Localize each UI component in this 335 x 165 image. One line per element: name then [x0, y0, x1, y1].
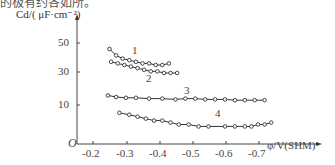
x-tick-0.4: -0.4: [149, 147, 166, 159]
data-point-marker: [144, 117, 148, 121]
data-point-marker: [223, 98, 227, 102]
data-point-marker: [154, 63, 158, 67]
x-tick-0.2: -0.2: [82, 147, 99, 159]
data-point-marker: [175, 71, 179, 75]
y-axis-label: Cd/( μF·cm⁻²): [16, 8, 80, 21]
y-tick-30: 30: [58, 65, 69, 77]
data-point-marker: [187, 123, 191, 127]
series-line-4: [119, 113, 271, 127]
data-point-marker: [114, 95, 118, 99]
data-point-marker: [116, 62, 120, 66]
data-point-marker: [169, 71, 173, 75]
y-tick-10: 10: [58, 98, 69, 110]
data-point-marker: [136, 66, 140, 70]
data-point-marker: [121, 57, 125, 61]
data-point-marker: [253, 98, 257, 102]
origin-label: O: [68, 136, 77, 151]
data-point-marker: [194, 97, 198, 101]
data-point-marker: [256, 123, 260, 127]
x-tick-0.5: -0.5: [182, 147, 199, 159]
data-point-marker: [136, 115, 140, 119]
x-tick-0.6: -0.6: [215, 147, 232, 159]
data-point-marker: [124, 96, 128, 100]
data-point-marker: [106, 94, 110, 98]
y-tick-50: 50: [58, 36, 69, 48]
data-point-marker: [147, 97, 151, 101]
curve-label-1: 1: [132, 44, 138, 56]
data-point-marker: [161, 119, 165, 123]
data-point-marker: [197, 125, 201, 129]
data-point-marker: [233, 125, 237, 129]
data-point-marker: [250, 125, 254, 129]
curve-label-4: 4: [215, 107, 221, 119]
data-point-marker: [162, 71, 166, 75]
data-point-marker: [207, 125, 211, 129]
curve-label-3: 3: [184, 84, 190, 96]
data-point-marker: [118, 111, 122, 115]
data-point-marker: [128, 113, 132, 117]
data-point-marker: [223, 125, 227, 129]
data-point-marker: [109, 60, 113, 64]
x-axis-label: φ/V(SHM): [267, 139, 316, 151]
data-point-marker: [169, 121, 173, 125]
x-tick-0.3: -0.3: [116, 147, 133, 159]
data-point-marker: [161, 97, 165, 101]
data-point-marker: [269, 121, 273, 125]
data-point-marker: [177, 123, 181, 127]
data-point-marker: [141, 62, 145, 66]
data-point-marker: [114, 54, 118, 58]
data-point-marker: [108, 47, 112, 51]
data-point-marker: [263, 123, 267, 127]
x-axis-arrow-icon: [316, 142, 322, 146]
data-point-marker: [174, 98, 178, 102]
data-point-marker: [263, 98, 267, 102]
data-point-marker: [147, 62, 151, 66]
data-point-marker: [167, 62, 171, 66]
data-point-marker: [134, 96, 138, 100]
data-point-marker: [128, 58, 132, 62]
data-point-marker: [129, 65, 133, 69]
curve-label-2: 2: [146, 72, 152, 84]
data-point-marker: [203, 98, 207, 102]
data-point-marker: [161, 63, 165, 67]
data-point-marker: [156, 70, 160, 74]
data-point-marker: [134, 60, 138, 64]
data-point-marker: [184, 97, 188, 101]
data-point-marker: [243, 125, 247, 129]
data-point-marker: [213, 98, 217, 102]
data-point-marker: [123, 63, 127, 67]
data-point-marker: [233, 98, 237, 102]
x-tick-0.7: -0.7: [248, 147, 265, 159]
data-point-marker: [243, 98, 247, 102]
data-point-marker: [152, 119, 156, 123]
